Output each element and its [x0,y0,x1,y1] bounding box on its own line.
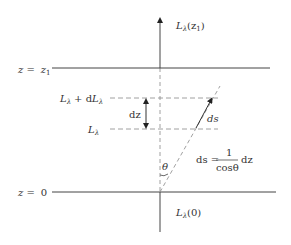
formula-numerator: 1 [226,147,232,158]
slant-path [160,86,220,192]
formula-rhs: dz [241,154,253,165]
theta-label: θ [162,161,168,172]
bottom-radiance-label: Lλ(0) [175,207,201,220]
theta-arc [160,174,168,176]
radiative-transfer-diagram: Lλ(z1) z =z1 Lλ+ dLλ Lλ dz ds θ ds = 1 c… [0,0,291,245]
lower-layer-label: Lλ [87,124,99,137]
z1-level-label: z =z1 [17,64,51,77]
upper-layer-label: Lλ+ dLλ [59,93,103,106]
formula-denominator: cosθ [216,162,239,173]
ds-label: ds [207,113,219,124]
z0-level-label: z =0 [17,187,47,198]
dz-label: dz [129,109,141,120]
top-radiance-label: Lλ(z1) [175,20,205,33]
